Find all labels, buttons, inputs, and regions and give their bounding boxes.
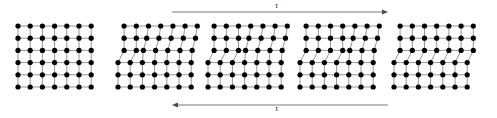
lattice-atom — [328, 48, 333, 53]
lattice-canvas — [0, 0, 497, 118]
lattice-atom — [76, 48, 81, 53]
shear-arrow-top — [172, 9, 388, 14]
lattice-atom — [52, 36, 57, 41]
lattice-atom — [242, 60, 247, 65]
lattice-atom — [15, 36, 20, 41]
lattice-atom — [89, 48, 94, 53]
lattice-atom — [459, 36, 464, 41]
lattice-atom — [52, 48, 57, 53]
lattice-atom — [176, 72, 181, 77]
lattice-atom — [377, 23, 382, 28]
lattice-atom — [189, 72, 194, 77]
lattice-atom — [352, 23, 357, 28]
lattice-atom — [242, 84, 247, 89]
lattice-atom — [459, 48, 464, 53]
lattice-atom — [205, 60, 210, 65]
lattice-atom — [422, 23, 427, 28]
lattice-stage-2 — [115, 23, 199, 89]
lattice-atom — [89, 60, 94, 65]
lattice-atom — [465, 72, 470, 77]
lattice-atom — [398, 36, 403, 41]
lattice-atom — [316, 48, 321, 53]
shear-arrow-bottom-head — [172, 102, 178, 107]
lattice-stage-1 — [15, 23, 93, 89]
lattice-atom — [212, 36, 217, 41]
lattice-atom — [64, 84, 69, 89]
lattice-atom — [334, 72, 339, 77]
lattice-atom — [416, 84, 421, 89]
lattice-atom — [236, 23, 241, 28]
lattice-atom — [316, 36, 321, 41]
lattice-atom — [410, 48, 415, 53]
lattice-atom — [146, 23, 151, 28]
lattice-atom — [224, 23, 229, 28]
lattice-atom — [28, 60, 33, 65]
lattice-atom — [64, 36, 69, 41]
lattice-atom — [140, 72, 145, 77]
lattice-atom — [52, 60, 57, 65]
lattice-atom — [416, 60, 421, 65]
lattice-atom — [89, 36, 94, 41]
lattice-atom — [267, 48, 272, 53]
lattice-atom — [28, 72, 33, 77]
lattice-atom — [398, 48, 403, 53]
lattice-atom — [189, 60, 194, 65]
lattice-atom — [128, 72, 133, 77]
lattice-atom — [218, 72, 223, 77]
lattice-atom — [404, 60, 409, 65]
lattice-atom — [422, 48, 427, 53]
lattice-atom — [410, 23, 415, 28]
lattice-atom — [230, 72, 235, 77]
lattice-atom — [76, 36, 81, 41]
lattice-atom — [164, 60, 169, 65]
lattice-atom — [398, 23, 403, 28]
lattice-atom — [310, 60, 315, 65]
lattice-atom — [375, 36, 380, 41]
lattice-atom — [15, 84, 20, 89]
lattice-atom — [205, 72, 210, 77]
lattice-atom — [128, 60, 133, 65]
lattice-atom — [236, 48, 241, 53]
lattice-atom — [176, 60, 181, 65]
lattice-atom — [52, 84, 57, 89]
lattice-atom — [266, 60, 271, 65]
lattice-atom — [183, 23, 188, 28]
lattice-atom — [40, 84, 45, 89]
lattice-atom — [15, 48, 20, 53]
lattice-atom — [363, 36, 368, 41]
lattice-atom — [359, 48, 364, 53]
lattice-atom — [248, 23, 253, 28]
lattice-atom — [358, 84, 363, 89]
lattice-atom — [164, 72, 169, 77]
dislocation-glide-figure: τ τ — [0, 0, 497, 118]
lattice-atom — [391, 60, 396, 65]
lattice-atom — [446, 23, 451, 28]
lattice-atom — [279, 72, 284, 77]
lattice-atom — [452, 84, 457, 89]
lattice-atom — [254, 60, 259, 65]
lattice-atom — [358, 60, 363, 65]
lattice-atom — [165, 48, 170, 53]
lattice-atom — [297, 60, 302, 65]
lattice-atom — [89, 72, 94, 77]
lattice-atom — [140, 60, 145, 65]
lattice-atom — [459, 23, 464, 28]
lattice-atom — [122, 48, 127, 53]
lattice-atom — [134, 48, 139, 53]
lattice-atom — [141, 48, 146, 53]
lattice-atom — [297, 72, 302, 77]
lattice-atom — [322, 60, 327, 65]
lattice-atom — [440, 84, 445, 89]
lattice-atom — [316, 23, 321, 28]
lattice-atom — [322, 72, 327, 77]
lattice-atom — [152, 84, 157, 89]
lattice-atom — [340, 36, 345, 41]
lattice-atom — [153, 48, 158, 53]
lattice-atom — [76, 60, 81, 65]
lattice-atom — [205, 84, 210, 89]
lattice-atom — [260, 23, 265, 28]
lattice-atom — [140, 84, 145, 89]
lattice-atom — [280, 48, 285, 53]
lattice-atom — [76, 72, 81, 77]
lattice-atom — [266, 84, 271, 89]
